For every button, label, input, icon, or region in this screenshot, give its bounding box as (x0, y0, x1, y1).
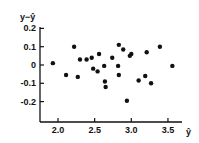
data-point (117, 43, 121, 47)
data-points (51, 43, 175, 103)
data-point (136, 78, 140, 82)
data-point (72, 45, 76, 49)
scatter-plot: y−ŷ 0.20.10-0.1-0.2 2.02.53.03.5 ŷ (0, 0, 199, 143)
data-point (143, 74, 147, 78)
y-tick-label: 0.1 (23, 42, 36, 52)
x-tick-label: 3.5 (162, 125, 175, 135)
data-point (103, 85, 107, 89)
data-point (78, 57, 82, 61)
data-point (95, 69, 99, 73)
x-axis-label: ŷ (186, 127, 191, 137)
data-point (144, 50, 148, 54)
data-point (121, 47, 125, 51)
data-point (170, 64, 174, 68)
y-tick-label: -0.1 (20, 78, 36, 88)
data-point (102, 64, 106, 68)
data-point (76, 75, 80, 79)
y-tick-label: -0.2 (20, 97, 36, 107)
data-point (64, 73, 68, 77)
data-point (103, 79, 107, 83)
x-tick-label: 2.5 (88, 125, 101, 135)
y-axis-label: y−ŷ (20, 12, 35, 22)
x-tick-label: 2.0 (52, 125, 65, 135)
data-point (116, 64, 120, 68)
data-point (125, 98, 129, 102)
y-tick-label: 0 (31, 60, 36, 70)
x-tick-label: 3.0 (125, 125, 138, 135)
data-point (149, 81, 153, 85)
data-point (110, 55, 114, 59)
y-tick-label: 0.2 (23, 23, 36, 33)
data-point (91, 66, 95, 70)
data-point (97, 52, 101, 56)
data-point (84, 57, 88, 61)
data-point (90, 55, 94, 59)
data-point (117, 73, 121, 77)
x-ticks: 2.02.53.03.5 (52, 118, 174, 135)
data-point (51, 61, 55, 65)
data-point (129, 52, 133, 56)
data-point (158, 45, 162, 49)
